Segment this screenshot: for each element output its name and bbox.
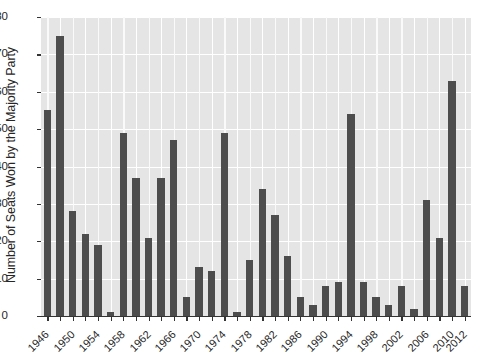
x-tick-mark-1966 [174,317,175,321]
y-tick-label-50: 50 [0,122,8,134]
gridline-x-1986 [300,17,301,316]
bar-1950 [69,211,76,316]
bar-1946 [44,110,51,316]
x-tick-mark-1956 [111,317,112,321]
bar-1960 [132,178,139,316]
gridline-x-2000 [389,17,390,316]
x-tick-label-1986: 1986 [278,328,304,354]
bar-1996 [360,282,367,316]
bar-1964 [157,178,164,316]
x-tick-label-1946: 1946 [25,328,51,354]
x-tick-mark-2008 [439,317,440,321]
gridline-x-2004 [414,17,415,316]
y-tick-mark-30 [37,204,41,205]
x-tick-mark-1972 [212,317,213,321]
x-tick-mark-1962 [149,317,150,321]
x-tick-mark-1960 [136,317,137,321]
x-tick-mark-1968 [186,317,187,321]
bar-1962 [145,238,152,316]
gridline-y-20 [41,241,471,242]
x-tick-mark-1950 [73,317,74,321]
y-tick-label-30: 30 [0,197,8,209]
x-tick-label-1970: 1970 [177,328,203,354]
y-tick-label-60: 60 [0,85,8,97]
bar-1982 [271,215,278,316]
gridline-x-1976 [237,17,238,316]
x-tick-mark-1948 [60,317,61,321]
y-tick-mark-60 [37,92,41,93]
bar-1980 [259,189,266,316]
x-tick-mark-1964 [161,317,162,321]
x-tick-mark-1998 [376,317,377,321]
bar-2010 [448,81,455,316]
x-tick-mark-1978 [250,317,251,321]
x-tick-mark-1996 [364,317,365,321]
x-tick-mark-1990 [326,317,327,321]
x-tick-mark-1946 [47,317,48,321]
bar-1968 [183,297,190,316]
gridline-y-30 [41,204,471,205]
y-tick-mark-10 [37,279,41,280]
y-tick-mark-80 [37,17,41,18]
x-axis-line [41,316,471,317]
bar-1988 [309,305,316,316]
gridline-x-2012 [465,17,466,316]
bar-1990 [322,286,329,316]
x-tick-mark-1974 [224,317,225,321]
y-tick-mark-70 [37,54,41,55]
bar-1972 [208,271,215,316]
bar-1966 [170,140,177,316]
gridline-x-1968 [186,17,187,316]
x-tick-mark-1986 [300,317,301,321]
x-tick-label-1950: 1950 [51,328,77,354]
x-tick-mark-2010 [452,317,453,321]
bar-1998 [372,297,379,316]
gridline-y-10 [41,279,471,280]
x-tick-mark-2002 [401,317,402,321]
y-tick-label-80: 80 [0,10,8,22]
x-tick-mark-1982 [275,317,276,321]
x-tick-mark-2000 [389,317,390,321]
bar-1970 [195,267,202,316]
gridline-x-2002 [401,17,402,316]
x-tick-mark-1994 [351,317,352,321]
y-tick-mark-40 [37,167,41,168]
x-tick-mark-1984 [288,317,289,321]
y-tick-label-10: 10 [0,272,8,284]
x-tick-label-1994: 1994 [329,328,355,354]
gridline-y-40 [41,167,471,168]
y-tick-mark-0 [37,316,41,317]
gridline-x-1998 [376,17,377,316]
x-tick-label-2006: 2006 [405,328,431,354]
gridline-y-80 [41,17,471,18]
y-tick-mark-20 [37,241,41,242]
x-tick-mark-2006 [427,317,428,321]
x-tick-mark-1952 [85,317,86,321]
plot-area [41,17,471,316]
x-tick-label-1962: 1962 [127,328,153,354]
bar-1958 [120,133,127,316]
bar-1978 [246,260,253,316]
bar-1984 [284,256,291,316]
x-tick-label-2002: 2002 [380,328,406,354]
x-tick-mark-1976 [237,317,238,321]
x-tick-label-1998: 1998 [354,328,380,354]
bar-2004 [410,309,417,316]
gridline-x-1990 [326,17,327,316]
gridline-x-1988 [313,17,314,316]
x-tick-mark-1954 [98,317,99,321]
x-tick-mark-2004 [414,317,415,321]
y-tick-label-20: 20 [0,234,8,246]
x-tick-label-1954: 1954 [76,328,102,354]
x-tick-mark-1970 [199,317,200,321]
bar-1994 [347,114,354,316]
bar-1986 [297,297,304,316]
bar-1948 [56,36,63,316]
x-tick-label-1978: 1978 [228,328,254,354]
bar-2000 [385,305,392,316]
gridline-y-70 [41,54,471,55]
x-tick-mark-1988 [313,317,314,321]
gridline-x-1956 [111,17,112,316]
x-tick-mark-2012 [465,317,466,321]
gridline-x-1992 [338,17,339,316]
